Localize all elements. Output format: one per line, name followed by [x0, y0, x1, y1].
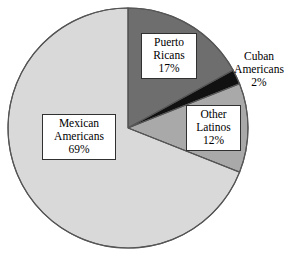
slice-label-mexican-americans: Mexican Americans 69% — [42, 114, 116, 160]
slice-label-value: 12% — [191, 134, 236, 147]
slice-label-line2: Latinos — [191, 121, 236, 134]
slice-label-line1: Other — [191, 108, 236, 121]
slice-label-value: 69% — [47, 143, 111, 156]
slice-label-line2: Americans — [47, 130, 111, 143]
pie-chart-figure: Puerto Ricans 17% Cuban Americans 2% Oth… — [0, 0, 296, 258]
slice-label-cuban-americans: Cuban Americans 2% — [223, 50, 295, 89]
slice-label-other-latinos: Other Latinos 12% — [186, 105, 241, 151]
slice-label-line2: Ricans — [146, 49, 192, 62]
slice-label-value: 17% — [146, 62, 192, 75]
slice-label-value: 2% — [223, 76, 295, 89]
slice-label-line2: Americans — [223, 63, 295, 76]
slice-label-line1: Mexican — [47, 117, 111, 130]
slice-label-puerto-ricans: Puerto Ricans 17% — [141, 33, 197, 79]
slice-label-line1: Puerto — [146, 36, 192, 49]
slice-label-line1: Cuban — [223, 50, 295, 63]
